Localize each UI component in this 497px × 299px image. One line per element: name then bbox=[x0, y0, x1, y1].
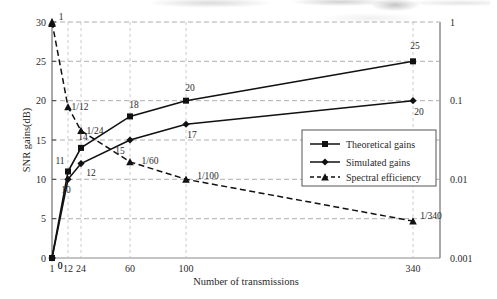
svg-text:24: 24 bbox=[76, 263, 86, 274]
svg-text:0: 0 bbox=[41, 253, 46, 264]
data-point-label: 0 bbox=[58, 261, 63, 271]
svg-text:10: 10 bbox=[36, 174, 46, 185]
y-axis-title: SNR gains(dB) bbox=[21, 107, 33, 172]
data-point-marker bbox=[183, 98, 189, 104]
data-point-label: 1/340 bbox=[420, 211, 442, 221]
chart-legend[interactable]: Theoretical gainsSimulated gainsSpectral… bbox=[302, 130, 436, 186]
data-point-marker bbox=[410, 58, 416, 64]
data-point-label: 1/12 bbox=[72, 102, 89, 112]
svg-text:0.01: 0.01 bbox=[450, 174, 468, 185]
y-axis-left-ticks: 051015202530 bbox=[36, 17, 56, 264]
data-point-marker bbox=[409, 97, 416, 104]
series-line-spectral-efficiency bbox=[52, 22, 413, 221]
svg-text:0.1: 0.1 bbox=[450, 95, 463, 106]
svg-text:20: 20 bbox=[36, 95, 46, 106]
legend-item-label: Simulated gains bbox=[346, 157, 410, 168]
legend-item-label: Spectral efficiency bbox=[346, 172, 421, 183]
data-point-label: 12 bbox=[86, 168, 96, 178]
grid-horizontal bbox=[52, 22, 440, 219]
data-point-marker bbox=[127, 113, 133, 119]
data-point-label: 1 bbox=[59, 12, 64, 22]
data-point-marker bbox=[126, 136, 133, 143]
svg-text:5: 5 bbox=[41, 213, 46, 224]
svg-text:1: 1 bbox=[450, 17, 455, 28]
data-point-label: 17 bbox=[187, 130, 197, 140]
chart-svg: 051015202530 10.10.010.001 1122460100340… bbox=[0, 0, 497, 299]
x-axis-ticks: 1122460100340 bbox=[50, 263, 421, 274]
svg-text:1: 1 bbox=[50, 263, 55, 274]
svg-text:100: 100 bbox=[179, 263, 194, 274]
svg-text:15: 15 bbox=[36, 135, 46, 146]
data-point-marker bbox=[126, 158, 134, 165]
svg-text:0.001: 0.001 bbox=[450, 253, 473, 264]
legend-item-label: Theoretical gains bbox=[346, 139, 415, 150]
chart-figure: 051015202530 10.10.010.001 1122460100340… bbox=[0, 0, 497, 299]
x-axis-title: Number of transmissions bbox=[193, 276, 299, 287]
svg-text:30: 30 bbox=[36, 17, 46, 28]
data-point-label: 25 bbox=[410, 41, 420, 51]
svg-text:60: 60 bbox=[125, 263, 135, 274]
legend-swatch-marker bbox=[322, 141, 328, 147]
data-point-label: 10 bbox=[61, 185, 71, 195]
data-point-label: 1/100 bbox=[197, 171, 219, 181]
data-point-label: 1/60 bbox=[142, 156, 159, 166]
data-point-marker bbox=[65, 168, 71, 174]
data-point-label: 18 bbox=[129, 100, 139, 110]
y-axis-right-ticks: 10.10.010.001 bbox=[450, 17, 473, 264]
data-point-marker bbox=[182, 121, 189, 128]
svg-text:340: 340 bbox=[406, 263, 421, 274]
data-point-label: 15 bbox=[115, 146, 125, 156]
data-point-label: 20 bbox=[414, 107, 424, 117]
data-point-label: 11 bbox=[55, 156, 64, 166]
svg-text:12: 12 bbox=[63, 263, 73, 274]
svg-text:25: 25 bbox=[36, 56, 46, 67]
data-point-marker bbox=[78, 145, 84, 151]
data-point-label: 1/24 bbox=[87, 126, 104, 136]
data-point-label: 20 bbox=[185, 83, 195, 93]
